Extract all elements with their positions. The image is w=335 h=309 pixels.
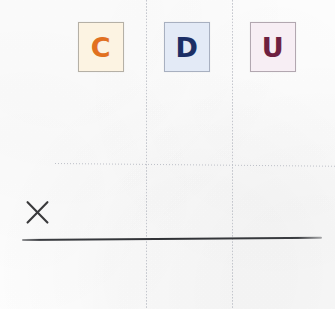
place-value-letter: U	[262, 34, 284, 61]
place-value-letter: C	[91, 34, 111, 61]
writing-base-line	[22, 237, 322, 241]
worksheet-canvas: C D U	[0, 0, 335, 309]
place-value-tile-d: D	[164, 22, 210, 72]
column-divider-left	[146, 0, 147, 309]
place-value-tile-c: C	[78, 22, 124, 72]
place-value-letter: D	[176, 34, 199, 61]
x-mark-icon	[26, 201, 49, 224]
column-divider-right	[232, 0, 233, 309]
dotted-guide-line	[55, 163, 335, 167]
place-value-tile-u: U	[250, 22, 296, 72]
x-mark-glyph	[26, 201, 49, 224]
